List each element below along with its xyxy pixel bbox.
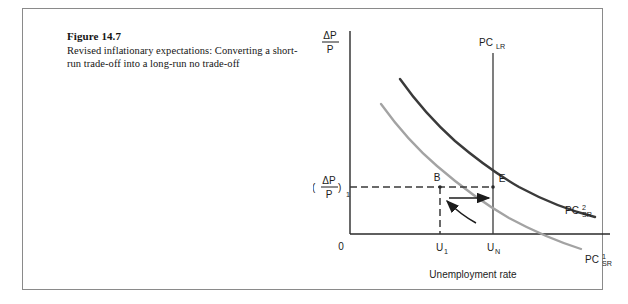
x-tick-label-u1: U 1 xyxy=(436,242,448,256)
point-b-label: B xyxy=(434,172,441,183)
y-tick-paren-open: ( xyxy=(313,182,316,193)
y-axis-denominator: P xyxy=(327,44,334,55)
curve-label-pc-sr-1: PC 1 SR xyxy=(585,252,612,268)
y-tick-subscript: 1 xyxy=(346,190,350,199)
pc-sr-2-label-sub: SR xyxy=(582,210,592,219)
point-b-marker xyxy=(438,185,442,189)
figure-number: Figure 14.7 xyxy=(67,29,302,43)
x-tick-u1-main: U xyxy=(436,242,443,253)
x-tick-un-main: U xyxy=(487,242,494,253)
arrow-adjustment-to-b xyxy=(447,201,476,223)
pc-lr-label-main: PC xyxy=(479,37,493,48)
figure-description: Revised inflationary expectations: Conve… xyxy=(67,44,302,70)
x-tick-un-sub: N xyxy=(495,247,500,256)
pc-lr-label-sub: LR xyxy=(496,42,505,51)
y-tick-paren-close: ) xyxy=(338,182,341,193)
point-e-marker xyxy=(491,185,495,189)
data-point-b: B xyxy=(434,172,442,189)
y-tick-numerator: ΔP xyxy=(322,175,336,186)
curve-pc-sr-1 xyxy=(381,104,581,249)
y-axis-label: ΔP P xyxy=(322,30,339,55)
pc-sr-2-label-main: PC xyxy=(565,205,579,216)
pc-sr-1-label-sub: SR xyxy=(602,259,612,268)
x-tick-u1-sub: 1 xyxy=(444,247,448,256)
y-axis-numerator: ΔP xyxy=(323,30,337,41)
origin-label: 0 xyxy=(338,241,344,252)
pc-sr-1-label-main: PC xyxy=(585,254,599,265)
x-tick-label-un: U N xyxy=(487,242,500,256)
figure-frame: Figure 14.7 Revised inflationary expecta… xyxy=(22,8,603,290)
curve-pc-sr-2 xyxy=(400,79,595,217)
y-tick-label-inflation-1: ( ΔP P ) 1 xyxy=(313,175,350,200)
figure-page: Figure 14.7 Revised inflationary expecta… xyxy=(0,0,628,304)
x-axis-title: Unemployment rate xyxy=(429,269,517,280)
curve-label-pc-sr-2: PC 2 SR xyxy=(565,203,592,219)
point-e-label: E xyxy=(499,173,506,184)
chart-svg: ΔP P PC LR PC 1 SR xyxy=(313,21,623,296)
curve-label-pc-lr: PC LR xyxy=(479,37,505,51)
phillips-curve-chart: ΔP P PC LR PC 1 SR xyxy=(313,21,623,296)
figure-caption: Figure 14.7 Revised inflationary expecta… xyxy=(67,29,302,70)
y-tick-denominator: P xyxy=(326,189,333,200)
